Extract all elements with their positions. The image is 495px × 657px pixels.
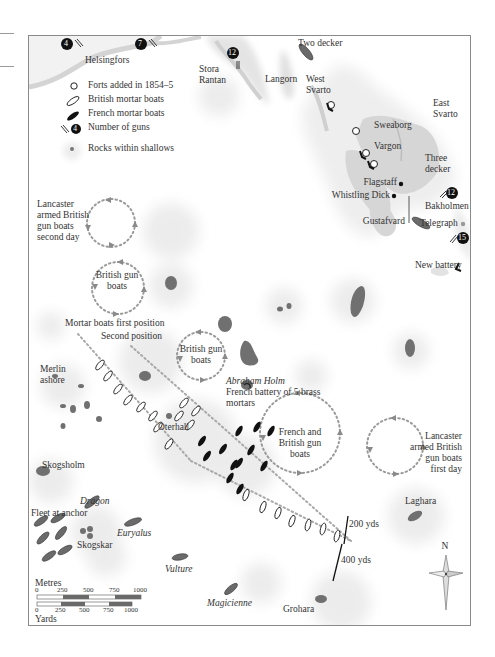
label-abraham-holm: Abraham Holm — [226, 376, 285, 387]
label-british-gun-boats-1: British gun boats — [92, 270, 142, 292]
label-two-decker: Two decker — [298, 38, 342, 49]
gun-count: 4 — [60, 38, 72, 49]
label-helsingfors: Helsingfors — [85, 55, 129, 66]
legend-guns: Number of guns — [88, 122, 150, 132]
label-oterhall: Oterhall — [158, 422, 189, 433]
label-whistling-dick: Whistling Dick — [320, 190, 390, 201]
label-second-position: Second position — [101, 331, 162, 342]
label-gustafvard: Gustafvard — [345, 216, 405, 227]
scale-tick: 0 — [35, 587, 39, 594]
label-lancaster-first-day: Lancaster armed British gun boats first … — [410, 431, 462, 475]
scale-tick: 0 — [35, 607, 39, 614]
legend-forts: Forts added in 1854–5 — [88, 80, 173, 90]
label-magicienne: Magicienne — [207, 598, 252, 609]
scale-tick: 500 — [79, 607, 90, 614]
label-new-battery: New battery — [415, 260, 462, 271]
label-british-gun-boats-2: British gun boats — [176, 344, 226, 366]
label-dist-200: 200 yds — [349, 519, 379, 530]
label-flagstaff: Flagstaff — [345, 177, 397, 188]
label-french-british-gun-boats: French and British gun boats — [272, 427, 328, 460]
label-fleet-at-anchor: Fleet at anchor — [31, 508, 87, 519]
label-grohara: Grohara — [283, 604, 314, 615]
margin-rule-top — [0, 33, 14, 34]
label-euryalus: Euryalus — [117, 528, 151, 539]
scale-bars — [37, 595, 141, 606]
scale-yards-label: Yards — [35, 614, 57, 625]
scale-tick: 250 — [57, 587, 68, 594]
legend-symbols — [63, 83, 81, 160]
label-vulture: Vulture — [165, 564, 192, 575]
label-mortar-first-position: Mortar boats first position — [65, 318, 164, 329]
gun-count: 12 — [226, 47, 238, 58]
scale-tick: 750 — [109, 587, 120, 594]
label-skogskar: Skogskar — [77, 540, 112, 551]
label-dist-400: 400 yds — [341, 555, 371, 566]
label-telegraph: Telegraph — [420, 218, 458, 229]
scale-tick: 250 — [55, 607, 66, 614]
label-lancaster-second-day: Lancaster armed British gun boats second… — [37, 199, 97, 243]
label-laghara: Laghara — [405, 496, 436, 507]
scale-tick: 750 — [103, 607, 114, 614]
label-east-svarto: East Svarto — [433, 98, 469, 120]
label-three-decker: Three decker — [425, 153, 465, 175]
label-langorn: Langorn — [265, 74, 297, 85]
label-bakholmen: Bakholmen — [425, 201, 469, 212]
label-merlin-ashore: Merlin ashore — [40, 364, 76, 386]
margin-rule-bottom — [0, 66, 14, 67]
legend-french-mortar: French mortar boats — [88, 108, 165, 118]
scale-tick: 1000 — [133, 587, 147, 594]
gun-count: 12 — [445, 187, 457, 198]
label-stora-rantan: Stora Rantan — [199, 64, 233, 86]
scale-tick: 500 — [83, 587, 94, 594]
label-sweaborg: Sweaborg — [374, 120, 412, 131]
gun-count: 7 — [134, 38, 146, 49]
legend-gun-count: 4 — [70, 123, 80, 134]
label-west-svarto: West Svarto — [306, 74, 346, 96]
label-skogsholm: Skogsholm — [42, 460, 85, 471]
label-dragon: Dragon — [80, 496, 110, 507]
compass-north: N — [440, 541, 450, 552]
label-french-battery: French battery of 5 brass mortars — [226, 387, 336, 409]
label-vargon: Vargon — [374, 141, 401, 152]
gun-count: 15 — [456, 232, 468, 243]
compass-rose — [429, 555, 463, 610]
legend-british-mortar: British mortar boats — [88, 94, 164, 104]
legend-rocks: Rocks within shallows — [88, 143, 174, 153]
scale-tick: 1000 — [124, 607, 138, 614]
